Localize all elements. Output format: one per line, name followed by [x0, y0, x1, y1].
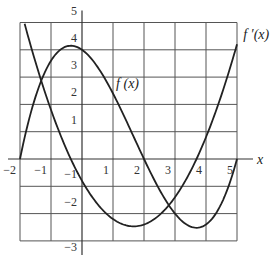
y-tick-label: −3: [64, 240, 77, 254]
y-tick-label: 4: [71, 31, 77, 45]
x-tick-label: −2: [3, 163, 16, 177]
curves: [20, 24, 237, 228]
x-tick-label: −1: [34, 163, 47, 177]
f-label: f (x): [116, 76, 139, 92]
y-tick-label: −2: [64, 195, 77, 209]
x-tick-label: 2: [134, 163, 140, 177]
curve-labels: f (x)f ′(x): [116, 27, 269, 92]
y-tick-label: 3: [71, 58, 77, 72]
axes: x: [8, 11, 264, 255]
f-curve: [20, 46, 237, 228]
x-axis-label: x: [256, 152, 264, 167]
x-tick-label: 4: [196, 163, 202, 177]
f-prime-label: f ′(x): [243, 27, 269, 43]
y-tick-label: 1: [71, 113, 77, 127]
x-tick-label: 1: [103, 163, 109, 177]
y-tick-label: 5: [71, 4, 77, 18]
x-tick-label: 3: [165, 163, 171, 177]
tick-labels: −2−11234554321−1−2−3: [3, 4, 233, 254]
y-tick-label: 2: [71, 85, 77, 99]
grid: [20, 23, 237, 241]
derivative-chart: x −2−11234554321−1−2−3 f (x)f ′(x): [0, 0, 279, 264]
